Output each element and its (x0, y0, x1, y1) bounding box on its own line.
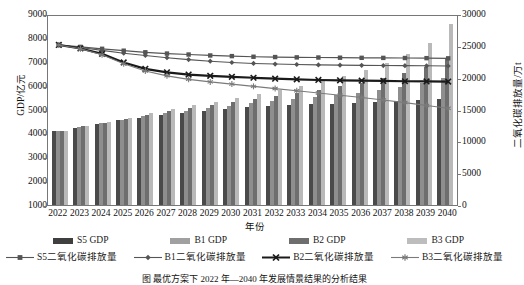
tick-mark (458, 142, 461, 143)
line-series-svg (48, 16, 457, 205)
marker-diamond (251, 61, 256, 66)
legend-line-marker-icon (6, 253, 34, 262)
y-axis-left-tick: 9000 (7, 9, 47, 19)
legend-swatch-icon (53, 238, 73, 244)
tick-mark (44, 206, 47, 207)
y-axis-left-tick: 7000 (7, 57, 47, 67)
legend-label: S5 GDP (77, 236, 108, 246)
y-axis-right-tick: 15000 (462, 105, 506, 115)
y-axis-left-tick: 4000 (7, 128, 47, 138)
marker-square (208, 53, 212, 57)
tick-mark (458, 111, 461, 112)
legend-line-marker-icon (262, 253, 290, 262)
marker-square (230, 54, 234, 58)
marker-diamond (294, 62, 299, 67)
legend-line-marker-icon (391, 253, 419, 262)
legend-label: B3二氧化碳排放量 (422, 253, 503, 263)
marker-diamond (424, 63, 429, 68)
legend-bar-series: S5 GDPB1 GDPB2 GDPB3 GDP (0, 236, 509, 246)
y-axis-right-title: 二氧化碳排放量/万t (510, 62, 524, 147)
y-axis-right-tick: 30000 (462, 9, 506, 19)
marker-square (359, 56, 363, 60)
y-axis-right-tick: 20000 (462, 73, 506, 83)
marker-square (186, 52, 190, 56)
x-axis-tick: 2040 (432, 208, 462, 218)
marker-square (316, 55, 320, 59)
x-axis-title: 年份 (0, 219, 509, 233)
legend-line-series: S5二氧化碳排放量B1二氧化碳排放量B2二氧化碳排放量B3二氧化碳排放量 (0, 253, 509, 263)
legend-item[interactable]: S5 GDP (53, 236, 108, 246)
y-axis-right-tick: 5000 (462, 168, 506, 178)
legend-item[interactable]: B2二氧化碳排放量 (262, 253, 374, 263)
marker-diamond (359, 63, 364, 68)
marker-diamond (316, 62, 321, 67)
tick-mark (458, 206, 461, 207)
y-axis-left-tick: 6000 (7, 81, 47, 91)
legend-label: B2 GDP (313, 236, 345, 246)
marker-square (338, 56, 342, 60)
y-axis-right-tick: 10000 (462, 136, 506, 146)
legend-item[interactable]: B1二氧化碳排放量 (134, 253, 246, 263)
legend-swatch-icon (170, 238, 190, 244)
marker-square (295, 55, 299, 59)
legend-line-marker-icon (134, 253, 162, 262)
marker-diamond (208, 59, 213, 64)
figure-caption: 图 最优方案下 2022 年—2040 年发展情景结果的分析结果 (0, 272, 509, 285)
legend-swatch-icon (407, 238, 427, 244)
marker-diamond (446, 63, 451, 68)
marker-square (273, 55, 277, 59)
y-axis-left-tick: 1000 (7, 200, 47, 210)
y-axis-left-tick: 3000 (7, 152, 47, 162)
tick-mark (458, 47, 461, 48)
legend-item[interactable]: B1 GDP (170, 236, 226, 246)
marker-diamond (186, 57, 191, 62)
legend-item[interactable]: B2 GDP (289, 236, 345, 246)
legend-swatch-icon (289, 238, 309, 244)
marker-diamond (229, 60, 234, 65)
marker-square (251, 55, 255, 59)
marker-diamond (402, 63, 407, 68)
marker-diamond (273, 61, 278, 66)
y-axis-left-tick: 2000 (7, 176, 47, 186)
legend-item[interactable]: S5二氧化碳排放量 (6, 253, 117, 263)
lines-layer (48, 16, 457, 205)
y-axis-right-tick: 25000 (462, 41, 506, 51)
tick-mark (458, 174, 461, 175)
chart-legend: S5 GDPB1 GDPB2 GDPB3 GDP S5二氧化碳排放量B1二氧化碳… (0, 236, 509, 262)
y-axis-left-tick: 8000 (7, 33, 47, 43)
y-axis-right-tick: 0 (462, 200, 506, 210)
legend-label: B3 GDP (431, 236, 463, 246)
marker-square (446, 56, 450, 60)
legend-item[interactable]: B3 GDP (407, 236, 463, 246)
plot-area (47, 15, 458, 206)
legend-label: S5二氧化碳排放量 (37, 253, 117, 263)
legend-label: B1 GDP (194, 236, 226, 246)
tick-mark (458, 15, 461, 16)
marker-diamond (381, 63, 386, 68)
marker-diamond (337, 63, 342, 68)
marker-square (424, 56, 428, 60)
marker-square (381, 56, 385, 60)
legend-label: B2二氧化碳排放量 (293, 253, 374, 263)
marker-square (403, 56, 407, 60)
legend-label: B1二氧化碳排放量 (165, 253, 246, 263)
y-axis-left-tick: 5000 (7, 105, 47, 115)
tick-mark (458, 79, 461, 80)
legend-item[interactable]: B3二氧化碳排放量 (391, 253, 503, 263)
marker-diamond (164, 55, 169, 60)
